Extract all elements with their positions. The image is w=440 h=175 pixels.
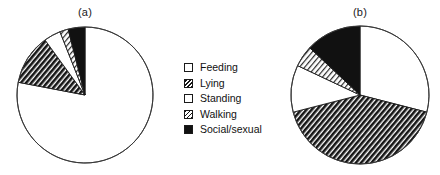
figure-two-pie-charts: (a) (b) Feeding bbox=[0, 0, 440, 175]
pie-chart-a bbox=[17, 27, 153, 163]
legend-item: Lying bbox=[184, 76, 280, 92]
legend-swatch-walking bbox=[184, 110, 193, 119]
legend-item: Social/sexual bbox=[184, 122, 280, 138]
legend-label-standing: Standing bbox=[200, 93, 241, 104]
legend-swatch-feeding bbox=[184, 63, 193, 72]
panel-label-b: (b) bbox=[335, 6, 385, 18]
legend-label-social: Social/sexual bbox=[200, 124, 262, 135]
legend-label-walking: Walking bbox=[200, 109, 237, 120]
legend-item: Walking bbox=[184, 107, 280, 123]
legend-label-lying: Lying bbox=[200, 78, 225, 89]
legend-swatch-social bbox=[184, 125, 193, 134]
panel-label-a: (a) bbox=[60, 6, 110, 18]
pie-chart-b bbox=[291, 26, 429, 164]
legend: Feeding Lying Standing Walking Social/se… bbox=[184, 60, 280, 138]
legend-item: Standing bbox=[184, 91, 280, 107]
legend-swatch-standing bbox=[184, 94, 193, 103]
legend-swatch-lying bbox=[184, 79, 193, 88]
legend-item: Feeding bbox=[184, 60, 280, 76]
legend-label-feeding: Feeding bbox=[200, 62, 238, 73]
